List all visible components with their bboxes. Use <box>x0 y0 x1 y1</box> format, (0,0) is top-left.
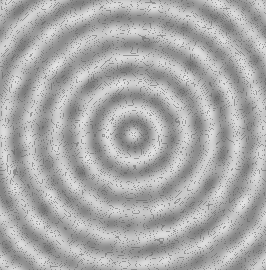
ring-pattern <box>0 0 266 270</box>
image-frame: Concentric ring interference pattern wit… <box>0 0 269 270</box>
ring-pattern-canvas <box>0 0 266 270</box>
